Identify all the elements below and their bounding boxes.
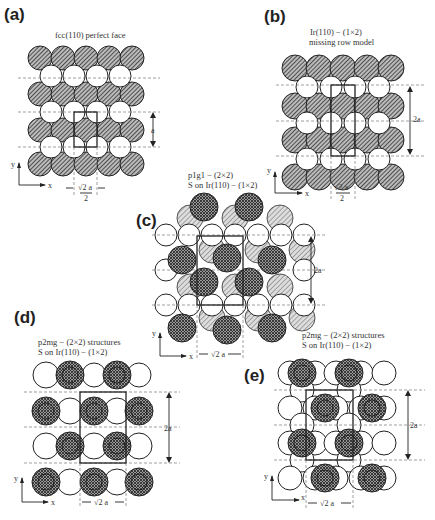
svg-text:√2 a: √2 a xyxy=(94,498,108,507)
panel-e-label: (e) xyxy=(244,366,265,385)
svg-text:Ir(110) − (1×2): Ir(110) − (1×2) xyxy=(310,27,362,37)
panel-b-label: (b) xyxy=(264,7,286,26)
svg-text:x: x xyxy=(305,189,309,198)
svg-text:y: y xyxy=(267,166,271,175)
svg-text:√2 a: √2 a xyxy=(334,183,348,192)
panel-b: (b) Ir(110) − (1×2) missing row model 2a… xyxy=(264,7,425,203)
svg-text:S on Ir(110) − (1×2): S on Ir(110) − (1×2) xyxy=(188,180,257,190)
svg-text:2a: 2a xyxy=(314,266,322,275)
svg-text:y: y xyxy=(264,472,268,481)
svg-text:y: y xyxy=(14,474,18,483)
panel-c: (c) p1g1 − (2×2) S on Ir(110) − (1×2) 2a xyxy=(136,170,325,361)
svg-text:missing row model: missing row model xyxy=(309,37,375,47)
svg-text:y: y xyxy=(152,329,156,338)
svg-text:2: 2 xyxy=(340,194,344,203)
svg-text:2: 2 xyxy=(84,194,88,203)
panel-e: (e) p2mg − (2×2) structures S on Ir(110)… xyxy=(244,330,425,508)
svg-text:p2mg − (2×2) structures: p2mg − (2×2) structures xyxy=(302,330,385,340)
dimension-sqrt2a: √2 a xyxy=(78,183,92,192)
panel-a-caption: fcc(110) perfect face xyxy=(55,30,126,40)
svg-text:x: x xyxy=(301,493,305,502)
svg-text:√2 a: √2 a xyxy=(320,499,334,508)
svg-text:x: x xyxy=(48,181,52,190)
svg-text:2a: 2a xyxy=(164,424,172,433)
panel-d: (d) p2mg − (2×2) structures S on Ir(110)… xyxy=(14,308,180,508)
svg-text:p1g1 − (2×2): p1g1 − (2×2) xyxy=(188,170,233,180)
panel-a-label: (a) xyxy=(4,5,25,24)
svg-text:√2 a: √2 a xyxy=(211,350,225,359)
svg-text:2a: 2a xyxy=(410,421,418,430)
svg-text:2a: 2a xyxy=(413,115,421,124)
panel-a: (a) fcc(110) perfect face a √2 a 2 xyxy=(4,5,160,203)
svg-text:y: y xyxy=(11,160,15,169)
svg-text:S on Ir(110) − (1×2): S on Ir(110) − (1×2) xyxy=(38,347,107,357)
svg-text:p2mg − (2×2) structures: p2mg − (2×2) structures xyxy=(38,337,121,347)
panel-d-label: (d) xyxy=(14,308,36,327)
svg-text:S on Ir(110) − (1×2): S on Ir(110) − (1×2) xyxy=(302,340,371,350)
svg-text:x: x xyxy=(51,498,55,507)
dimension-a: a xyxy=(151,126,155,135)
panel-c-label: (c) xyxy=(136,211,157,230)
svg-text:x: x xyxy=(189,352,193,361)
surface-structure-figure: (a) fcc(110) perfect face a √2 a 2 xyxy=(0,0,435,520)
